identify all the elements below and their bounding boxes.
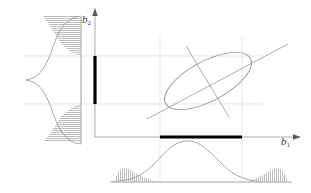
y-axis-label: b2 [82,14,91,25]
bivariate-distribution-figure [0,0,311,193]
x-axis-label: b1 [281,136,290,147]
